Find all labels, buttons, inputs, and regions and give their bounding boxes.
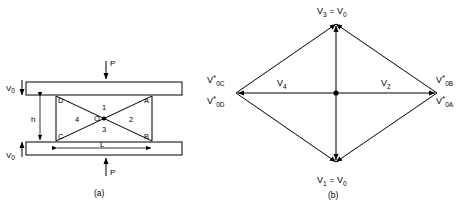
vertex-top-label: V3 = V0 [317,6,347,18]
label-v0c: V*0C [207,73,225,87]
label-v0b: V*0B [436,73,453,87]
label-v0d: V*0D [207,94,225,108]
label-v2: V2 [381,78,391,90]
panel-b-hodograph: V3 = V0 V1 = V0 V*0C V*0D V*0B V*0A V4 V… [0,0,460,206]
label-v0a: V*0A [436,94,454,108]
figure-root: P P V0 V0 h L D A [0,0,460,206]
edge-right-to-bottom [336,93,437,162]
panel-b-caption: (b) [328,190,339,200]
edge-left-to-bottom [236,93,336,162]
label-v4: V4 [277,78,287,90]
hodograph-centre-node [333,90,338,95]
vertex-bottom-label: V1 = V0 [317,175,347,187]
